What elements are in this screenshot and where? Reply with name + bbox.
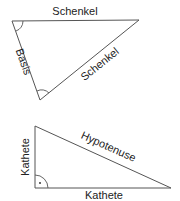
label-kathete-vertical: Kathete — [19, 138, 31, 176]
isosceles-triangle: Schenkel Basis Schenkel — [12, 5, 139, 100]
right-angle-arc — [35, 175, 48, 188]
isosceles-triangle-outline — [12, 20, 139, 100]
label-kathete-bottom: Kathete — [85, 189, 123, 201]
right-triangle: Kathete Kathete Hypotenuse — [19, 126, 171, 201]
label-basis: Basis — [14, 47, 35, 77]
triangle-diagram: Schenkel Basis Schenkel Kathete Kathete … — [0, 0, 180, 201]
top-left-angle-arc — [16, 21, 23, 31]
right-triangle-outline — [35, 126, 171, 188]
right-angle-dot — [39, 182, 41, 184]
label-hypotenuse: Hypotenuse — [79, 129, 138, 164]
label-schenkel-top: Schenkel — [52, 5, 97, 17]
bottom-angle-arc — [37, 90, 49, 93]
